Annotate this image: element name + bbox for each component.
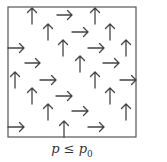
up-arrow-icon — [28, 88, 37, 104]
up-arrow-icon — [106, 88, 115, 104]
up-arrow-icon — [122, 40, 131, 56]
caption-rhs-subscript: 0 — [87, 149, 93, 159]
caption-rhs: p — [79, 141, 87, 156]
caption-relation: ≤ — [60, 141, 79, 156]
up-arrow-icon — [106, 24, 115, 40]
diagram-caption: p ≤ p0 — [8, 141, 136, 159]
right-arrow-icon — [25, 59, 40, 68]
right-arrow-icon — [120, 76, 136, 85]
caption-variable: p — [51, 141, 59, 156]
up-arrow-icon — [11, 72, 20, 88]
right-arrow-icon — [72, 28, 88, 37]
right-arrow-icon — [8, 44, 24, 53]
up-arrow-icon — [91, 8, 100, 24]
up-arrow-icon — [28, 8, 37, 24]
up-arrow-icon — [91, 72, 100, 88]
right-arrow-icon — [103, 59, 119, 68]
right-arrow-icon — [72, 107, 88, 116]
right-arrow-icon — [8, 123, 24, 132]
up-arrow-icon — [122, 104, 131, 120]
diagram-frame — [8, 7, 136, 137]
right-arrow-icon — [56, 92, 72, 101]
up-arrows-group — [11, 8, 131, 137]
right-arrows-group — [8, 11, 136, 132]
right-arrow-icon — [40, 76, 56, 85]
arrow-field-diagram — [0, 0, 167, 162]
right-arrow-icon — [57, 11, 72, 20]
up-arrow-icon — [60, 121, 69, 137]
up-arrow-icon — [76, 56, 85, 72]
up-arrow-icon — [59, 40, 68, 56]
right-arrow-icon — [88, 44, 104, 53]
right-arrow-icon — [88, 123, 104, 132]
up-arrow-icon — [44, 104, 53, 120]
up-arrow-icon — [44, 24, 53, 40]
